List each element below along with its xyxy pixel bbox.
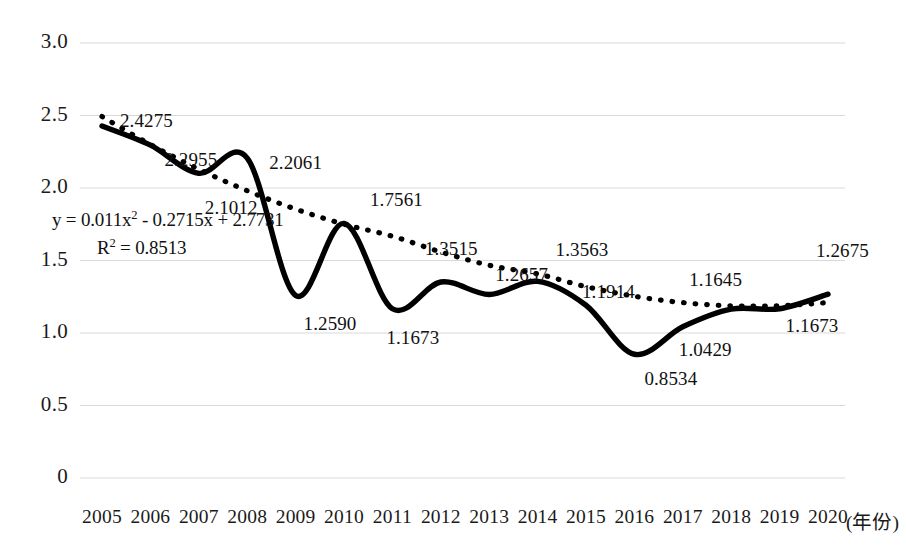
y-tick-1.0: 1.0 <box>22 319 68 344</box>
x-axis-unit-label: (年份) <box>846 506 899 535</box>
data-label-2006: 2.2955 <box>164 149 217 171</box>
y-tick-0: 0 <box>22 464 68 489</box>
data-label-2015: 1.1914 <box>582 281 635 303</box>
data-label-2011: 1.1673 <box>386 327 439 349</box>
chart-figure: 3.02.52.01.51.00.50 20052006200720082009… <box>0 0 906 546</box>
equation-suffix: - 0.2715x + 2.7731 <box>137 209 283 230</box>
data-label-2014: 1.3563 <box>556 239 609 261</box>
y-tick-2.5: 2.5 <box>22 102 68 127</box>
chart-plot-area <box>0 0 906 546</box>
data-label-2008: 2.2061 <box>269 152 322 174</box>
data-label-2016: 0.8534 <box>644 368 697 390</box>
data-label-2009: 1.2590 <box>304 313 357 335</box>
equation-prefix: y = 0.011x <box>52 209 131 230</box>
data-label-2012: 1.3515 <box>425 238 478 260</box>
data-label-2020: 1.2675 <box>816 240 869 262</box>
data-label-2017: 1.0429 <box>679 339 732 361</box>
gridlines-group <box>80 43 845 478</box>
data-label-2019: 1.1673 <box>786 315 839 337</box>
data-label-2005: 2.4275 <box>120 110 173 132</box>
y-tick-3.0: 3.0 <box>22 29 68 54</box>
trendline-r-squared: R2 = 0.8513 <box>97 237 186 259</box>
r-squared-prefix: R <box>97 237 109 258</box>
y-tick-0.5: 0.5 <box>22 392 68 417</box>
data-label-2010: 1.7561 <box>370 189 423 211</box>
y-tick-1.5: 1.5 <box>22 247 68 272</box>
y-tick-2.0: 2.0 <box>22 174 68 199</box>
trendline-equation: y = 0.011x2 - 0.2715x + 2.7731 <box>52 209 284 231</box>
data-label-2018: 1.1645 <box>689 269 742 291</box>
r-squared-suffix: = 0.8513 <box>116 237 187 258</box>
data-label-2013: 1.2657 <box>495 264 548 286</box>
